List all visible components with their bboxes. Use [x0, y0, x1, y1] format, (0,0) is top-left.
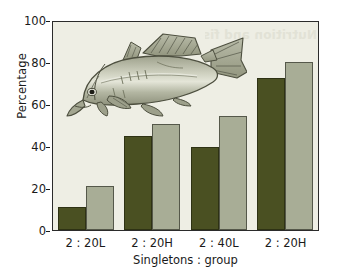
y-tick-mark — [46, 21, 50, 22]
y-tick-label: 20 — [18, 182, 46, 196]
bar[interactable] — [257, 78, 285, 230]
bar[interactable] — [191, 147, 219, 230]
y-tick-mark — [46, 189, 50, 190]
x-tick-label: 2 : 20H — [117, 236, 187, 250]
y-tick-label: 40 — [18, 140, 46, 154]
x-tick-label: 2 : 20H — [251, 236, 321, 250]
bar-group — [119, 22, 185, 230]
plot-area: Nutrition and fish — [52, 21, 319, 231]
bar[interactable] — [219, 116, 247, 230]
y-tick-mark — [46, 231, 50, 232]
y-axis-tick-labels: 020406080100 — [16, 0, 46, 276]
y-tick-mark — [46, 147, 50, 148]
bar-group — [252, 22, 318, 230]
bar[interactable] — [124, 136, 152, 230]
y-tick-mark — [46, 63, 50, 64]
y-tick-label: 100 — [18, 14, 46, 28]
bar-group — [186, 22, 252, 230]
y-tick-label: 80 — [18, 56, 46, 70]
y-tick-label: 0 — [18, 224, 46, 238]
bar[interactable] — [58, 207, 86, 230]
x-axis-title: Singletons : group — [52, 253, 319, 267]
bar[interactable] — [152, 124, 180, 230]
y-tick-label: 60 — [18, 98, 46, 112]
x-tick-label: 2 : 20L — [50, 236, 120, 250]
x-axis-tick-labels: 2 : 20L2 : 20H2 : 40L2 : 20H — [52, 236, 319, 252]
x-tick-label: 2 : 40L — [184, 236, 254, 250]
y-tick-mark — [46, 105, 50, 106]
bar[interactable] — [285, 62, 313, 230]
bar-series-container — [53, 22, 318, 230]
bar[interactable] — [86, 186, 114, 230]
bar-group — [53, 22, 119, 230]
bar-chart-figure: Percentage 020406080100 Nutrition and fi… — [0, 0, 354, 276]
